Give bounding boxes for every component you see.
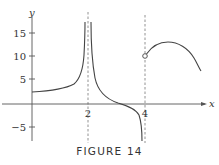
x-axis-label: x: [209, 98, 215, 109]
y-tick-label-neg5: −5: [11, 122, 26, 133]
y-tick-label-10: 10: [13, 51, 26, 62]
curve-left-branch: [32, 22, 85, 92]
curve-right-branch: [147, 42, 202, 71]
y-tick-label-5: 5: [20, 74, 26, 85]
x-axis-arrow: [201, 102, 207, 106]
x-tick-label-4: 4: [142, 108, 148, 119]
figure-caption: FIGURE 14: [0, 145, 219, 157]
open-point-4-10: [143, 54, 148, 59]
y-tick-label-15: 15: [13, 28, 26, 39]
y-axis-label: y: [28, 7, 35, 18]
curve-middle-branch: [91, 22, 142, 141]
figure-plot: y x 15 10 5 −5 2 4: [0, 0, 219, 165]
x-tick-label-2: 2: [85, 108, 91, 119]
